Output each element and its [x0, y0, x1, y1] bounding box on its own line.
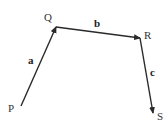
vector-diagram: P Q R S a b c [0, 0, 165, 125]
point-label-p: P [8, 102, 14, 114]
point-label-q: Q [44, 11, 52, 23]
vector-label-b: b [94, 17, 100, 29]
vector-label-a: a [28, 54, 34, 66]
vector-a-arrow [21, 27, 56, 106]
vector-label-c: c [150, 66, 155, 78]
point-label-r: R [144, 29, 152, 41]
point-label-s: S [157, 110, 163, 122]
